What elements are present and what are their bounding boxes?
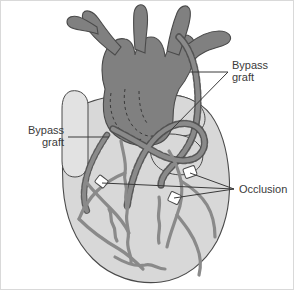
label-occlusion: Occlusion — [239, 183, 287, 195]
label-bypass-graft-left: Bypass graft — [28, 124, 65, 148]
heart-bypass-diagram: Bypass graft Bypass graft Occlusion — [1, 1, 294, 290]
figure-container: Bypass graft Bypass graft Occlusion — [0, 0, 294, 290]
label-bypass-graft-right: Bypass graft — [232, 59, 269, 83]
bypass-graft-right-line2: graft — [232, 71, 254, 83]
bypass-graft-right-line1: Bypass — [232, 59, 269, 71]
occlusion-line1: Occlusion — [239, 183, 287, 195]
left-atrial-appendage — [62, 91, 88, 177]
bypass-graft-left-line1: Bypass — [28, 124, 65, 136]
bypass-graft-left-line2: graft — [42, 136, 64, 148]
